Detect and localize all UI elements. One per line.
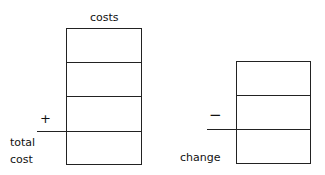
change-row-divider <box>236 95 311 96</box>
plus-sign: + <box>40 112 51 125</box>
sum-line <box>37 131 142 132</box>
total-label-line1: total <box>10 137 35 149</box>
change-label: change <box>180 152 220 164</box>
total-label-line2: cost <box>10 154 33 166</box>
difference-line <box>207 129 311 130</box>
costs-row-divider <box>66 62 142 63</box>
change-box <box>236 61 311 164</box>
costs-header: costs <box>90 12 119 24</box>
costs-row-divider <box>66 96 142 97</box>
minus-sign: − <box>209 109 222 122</box>
